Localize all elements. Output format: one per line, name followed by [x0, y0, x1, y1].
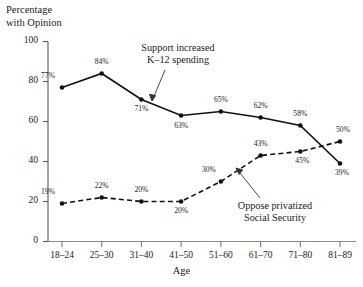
y-tick-label-60: 60 [12, 115, 38, 125]
data-label-oppose-1: 22% [87, 181, 117, 190]
data-label-support-0: 77% [33, 71, 63, 80]
line-chart: Percentage with Opinion [0, 0, 363, 287]
data-label-support-2: 71% [126, 104, 156, 113]
x-axis-title: Age [0, 265, 363, 278]
data-label-support-4: 65% [206, 95, 236, 104]
data-label-oppose-7: 50% [328, 125, 358, 134]
data-label-support-5: 62% [246, 101, 276, 110]
y-tick-label-20: 20 [12, 195, 38, 205]
data-label-support-1: 84% [87, 57, 117, 66]
y-tick-label-100: 100 [12, 35, 38, 45]
series-line-support [62, 74, 340, 164]
data-label-support-7: 39% [327, 168, 357, 177]
x-tick-label-7: 81–89 [317, 250, 363, 260]
data-label-oppose-3: 20% [166, 206, 196, 215]
annotation-oppose-label: Oppose privatized Social Security [212, 200, 338, 224]
y-tick-label-0: 0 [12, 235, 38, 245]
annotation-support-label: Support increased K–12 spending [118, 42, 238, 66]
y-tick-label-40: 40 [12, 155, 38, 165]
data-label-oppose-6: 45% [287, 156, 317, 165]
annotation-leader-support [149, 70, 165, 101]
data-label-oppose-0: 19% [33, 187, 63, 196]
data-label-oppose-5: 43% [246, 139, 276, 148]
x-axis-ticks [62, 242, 340, 248]
annotation-leader-oppose [236, 168, 260, 198]
data-label-oppose-4: 30% [194, 165, 224, 174]
data-label-support-3: 63% [166, 121, 196, 130]
data-label-oppose-2: 20% [126, 185, 156, 194]
data-label-support-6: 58% [285, 109, 315, 118]
